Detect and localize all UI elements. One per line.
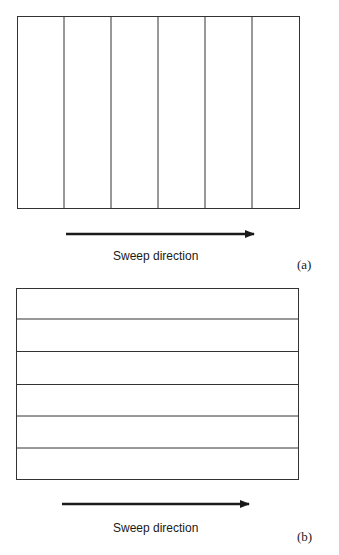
diagram-canvas <box>0 0 339 555</box>
sweep-caption-b: Sweep direction <box>113 521 198 535</box>
panel-b-grid <box>17 289 299 480</box>
panel-label-b: (b) <box>297 529 312 545</box>
panel-label-a: (a) <box>297 257 311 273</box>
sweep-caption-a: Sweep direction <box>113 249 198 263</box>
panel-a-grid <box>18 17 300 209</box>
